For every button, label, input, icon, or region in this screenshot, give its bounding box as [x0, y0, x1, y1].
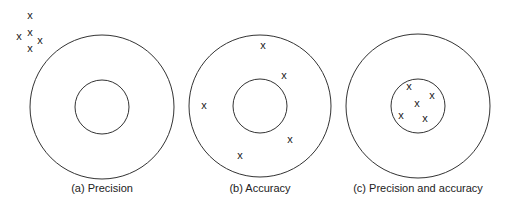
target-inner-ring-accuracy [233, 79, 287, 133]
hit-mark-icon: x [414, 98, 420, 109]
hit-mark-icon: x [281, 70, 287, 81]
hit-mark-icon: x [237, 150, 243, 161]
hit-mark-icon: x [406, 81, 412, 92]
target-outer-ring-precision [30, 35, 174, 179]
hit-mark-icon: x [16, 31, 22, 42]
hit-mark-icon: x [27, 43, 33, 54]
caption-precision: (a) Precision [71, 182, 133, 194]
hit-mark-icon: x [429, 90, 435, 101]
hit-mark-icon: x [260, 40, 266, 51]
hit-mark-icon: x [27, 10, 33, 21]
hit-mark-icon: x [287, 134, 293, 145]
hit-mark-icon: x [398, 110, 404, 121]
caption-precision-and-accuracy: (c) Precision and accuracy [353, 182, 483, 194]
hit-mark-icon: x [422, 113, 428, 124]
caption-accuracy: (b) Accuracy [229, 182, 290, 194]
targets-diagram [0, 0, 505, 208]
hit-mark-icon: x [201, 100, 207, 111]
hit-mark-icon: x [37, 35, 43, 46]
hit-mark-icon: x [27, 27, 33, 38]
target-outer-ring-accuracy [189, 35, 331, 177]
target-inner-ring-precision [75, 80, 129, 134]
